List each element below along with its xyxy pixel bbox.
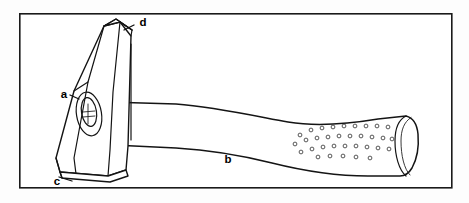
label-b: b xyxy=(224,153,231,165)
label-c: c xyxy=(54,175,61,187)
diagram-canvas: d a b c xyxy=(0,0,469,203)
hammer-diagram-svg: d a b c xyxy=(0,0,469,203)
label-a: a xyxy=(61,88,68,100)
label-d: d xyxy=(139,16,146,28)
